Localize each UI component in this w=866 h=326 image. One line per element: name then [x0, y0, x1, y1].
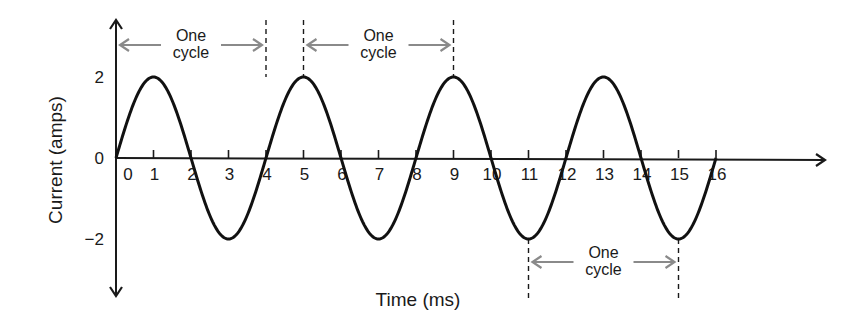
axes [116, 20, 825, 296]
y-tick-label: 2 [95, 68, 104, 87]
cycle-label-line2: cycle [585, 261, 622, 278]
y-tick-label: −2 [85, 230, 104, 249]
y-tick-label: 0 [95, 149, 104, 168]
sine-wave-chart: 012345678910111213141516 20−2 OnecycleOn… [0, 0, 866, 326]
x-axis [116, 158, 825, 160]
x-tick-label: 9 [450, 165, 459, 184]
x-tick-label: 0 [123, 165, 132, 184]
cycle-label-line1: One [588, 244, 618, 261]
x-tick-label: 7 [375, 165, 384, 184]
x-tick-label: 5 [300, 165, 309, 184]
cycle-label-line2: cycle [173, 44, 210, 61]
x-tick-label: 11 [521, 165, 539, 184]
x-tick-label: 13 [595, 165, 614, 184]
x-axis-label: Time (ms) [376, 289, 461, 310]
cycle-label-line1: One [176, 27, 206, 44]
y-axis-label: Current (amps) [45, 96, 66, 224]
y-ticks: 20−2 [85, 68, 104, 249]
x-tick-label: 15 [670, 165, 689, 184]
x-tick-label: 1 [150, 165, 159, 184]
cycle-label-line1: One [363, 27, 393, 44]
cycle-label-line2: cycle [360, 44, 397, 61]
x-tick-label: 3 [225, 165, 234, 184]
cycle-annotations: OnecycleOnecycleOnecycle [120, 27, 675, 278]
x-ticks: 012345678910111213141516 [123, 150, 726, 184]
